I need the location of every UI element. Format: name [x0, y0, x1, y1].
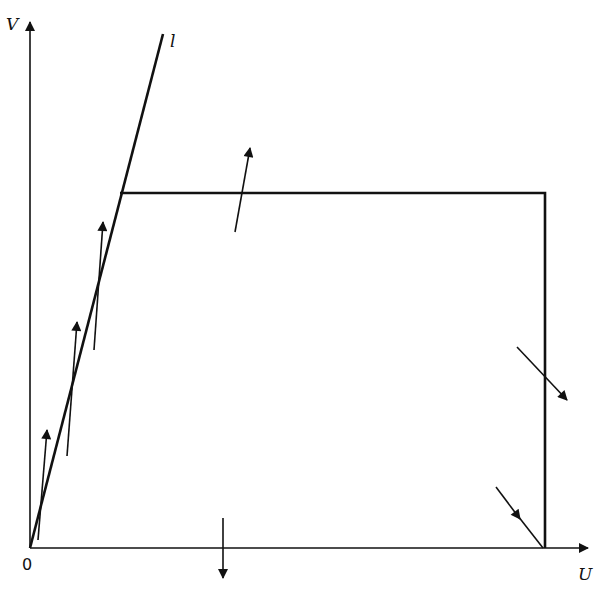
arrow-top-edge-icon [235, 148, 250, 232]
region-boundary [120, 193, 545, 548]
arrow-right-edge-icon [517, 347, 567, 400]
u-axis-label: U [578, 564, 593, 584]
line-l-label: l [170, 31, 175, 51]
phase-diagram: V U 0 l [0, 0, 604, 589]
arrow-on-l-3-icon [94, 222, 103, 350]
arrow-on-l-2-icon [67, 322, 77, 456]
origin-label: 0 [22, 555, 32, 574]
line-l [30, 34, 163, 548]
v-axis-label: V [6, 14, 20, 34]
arrow-corner-tail [518, 516, 543, 548]
arrow-corner-icon [496, 487, 520, 519]
